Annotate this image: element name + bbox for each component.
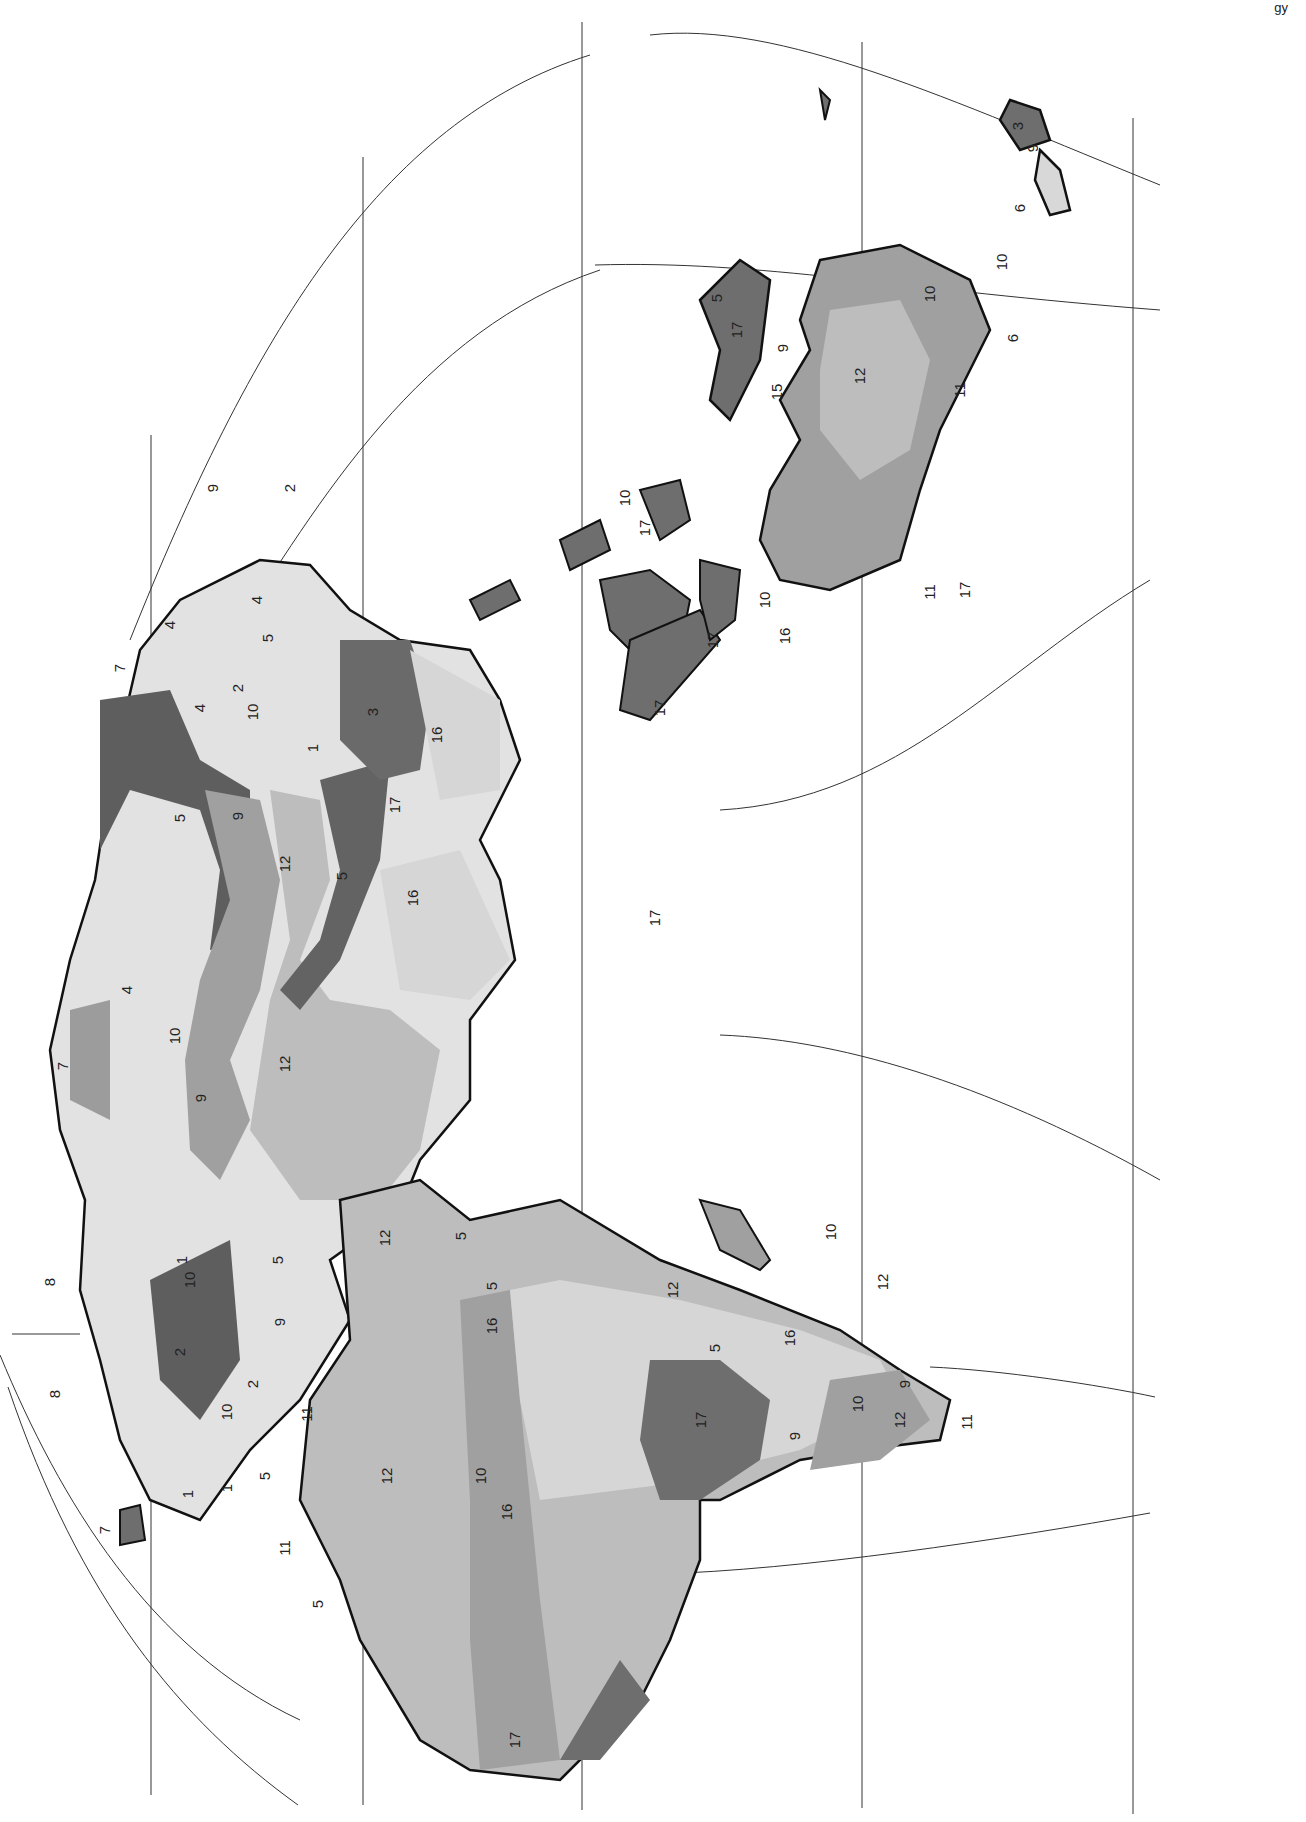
zone-label: 16 [781,1330,798,1347]
zone-label: 6 [1011,204,1028,212]
zone-label: 5 [483,1282,500,1290]
landmass-south [300,1180,950,1780]
zone-label: 10 [218,1404,235,1421]
zone-label: 16 [498,1504,515,1521]
zone-label: 5 [309,1600,326,1608]
zone-label: 7 [96,1526,113,1534]
zone-label: 9 [774,344,791,352]
zone-label: 17 [636,520,653,537]
zone-label: 17 [956,582,973,599]
zone-label: 5 [256,1472,273,1480]
zone-label: 9 [229,812,246,820]
zone-label: 6 [1004,334,1021,342]
zone-label: 16 [483,1318,500,1335]
zone-label: 4 [248,596,265,604]
zone-label: 11 [298,1406,315,1422]
zone-label: 4 [118,986,135,994]
zone-label: 5 [706,1344,723,1352]
zone-label: 4 [191,704,208,712]
zone-label: 3 [1009,122,1026,130]
zone-label: 9 [271,1318,288,1326]
zone-label: 10 [616,490,633,507]
zone-label: 12 [378,1468,395,1485]
zone-label: 10 [244,704,261,721]
zone-label: 9 [1024,144,1041,152]
zone-label: 16 [404,890,421,907]
zone-label: 3 [364,708,381,716]
zone-label: 17 [386,797,403,814]
zone-label: 17 [692,1412,709,1429]
zone-label: 2 [281,484,298,492]
zone-label: 8 [46,1390,63,1398]
zone-label: 5 [269,1256,286,1264]
zone-label: 11 [921,584,938,600]
zone-label: 17 [728,322,745,339]
zone-label: 10 [756,592,773,609]
zone-label: 8 [41,1278,58,1286]
zone-label: 16 [428,727,445,744]
zone-label: 7 [54,1062,71,1070]
zone-label: 10 [993,254,1010,271]
zone-label: 10 [181,1272,198,1289]
zone-label: 17 [506,1732,523,1749]
zone-label: 12 [276,1056,293,1073]
zone-label: 11 [276,1540,293,1556]
zone-label: 11 [958,1414,975,1430]
biome-map: 9245742410316195171251641012791105922101… [0,0,1306,1822]
zone-label: 9 [204,484,221,492]
zone-label: 11 [951,382,968,398]
zone-label: 2 [171,1348,188,1356]
zone-label: 12 [891,1412,908,1429]
zone-label: 1 [218,1484,235,1492]
zone-label: 5 [452,1232,469,1240]
zone-label: 10 [921,286,938,303]
zone-label: 17 [704,632,721,649]
zone-label: 1 [179,1490,196,1498]
zone-label: 9 [192,1094,209,1102]
zone-label: 9 [786,1432,803,1440]
zone-label: 4 [161,621,178,629]
zone-label: 12 [276,856,293,873]
zone-label: 16 [776,628,793,645]
zone-label: 1 [173,1256,190,1264]
zone-label: 2 [244,1380,261,1388]
zone-label: 10 [822,1224,839,1241]
zone-label: 1 [304,744,321,752]
zone-label: 10 [472,1468,489,1485]
zone-label: 2 [229,684,246,692]
zone-label: 9 [896,1380,913,1388]
zone-label: 5 [333,872,350,880]
zone-label: 10 [849,1396,866,1413]
zone-label: 12 [376,1230,393,1247]
zone-label: 17 [646,910,663,927]
zone-label: 5 [708,294,725,302]
zone-label: 12 [664,1282,681,1299]
zone-label: 10 [166,1028,183,1045]
zone-label: 5 [259,634,276,642]
zone-label: 12 [851,368,868,385]
zone-label: 5 [171,814,188,822]
zone-label: 7 [111,664,128,672]
landmass-east [700,100,1070,590]
zone-label: 12 [874,1274,891,1291]
zone-label: 17 [651,700,668,717]
zone-label: 15 [768,384,785,401]
